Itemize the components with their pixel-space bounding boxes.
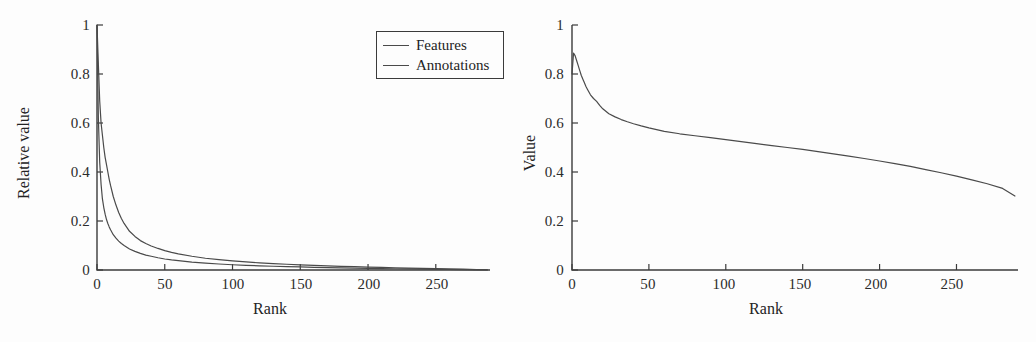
xaxis-title-left: Rank <box>253 300 287 318</box>
legend-line-icon-annotations <box>383 65 409 66</box>
ytick-label-right-4: 0.8 <box>528 66 564 83</box>
xtick-label-left-4: 200 <box>357 276 380 293</box>
xtick-label-right-3: 150 <box>788 276 811 293</box>
xtick-label-right-2: 100 <box>712 276 735 293</box>
figure-container: 0 0.2 0.4 0.6 0.8 1 0 50 100 150 200 250… <box>0 0 1036 342</box>
ytick-label-left-4: 0.8 <box>54 66 90 83</box>
xtick-label-right-0: 0 <box>568 276 576 293</box>
ytick-label-left-2: 0.4 <box>54 164 90 181</box>
yaxis-title-left: Relative value <box>12 98 36 198</box>
ytick-label-right-1: 0.2 <box>528 213 564 230</box>
yaxis-title-left-text: Relative value <box>15 103 33 203</box>
ytick-label-left-1: 0.2 <box>54 213 90 230</box>
xtick-label-left-2: 100 <box>221 276 244 293</box>
ytick-label-right-5: 1 <box>528 17 564 34</box>
xtick-label-left-3: 150 <box>289 276 312 293</box>
ytick-label-left-3: 0.6 <box>54 115 90 132</box>
xtick-label-right-4: 200 <box>864 276 887 293</box>
legend-label-annotations: Annotations <box>416 55 489 75</box>
legend-line-icon-features <box>383 45 409 46</box>
xtick-label-left-1: 50 <box>157 276 172 293</box>
ytick-label-left-0: 0 <box>54 262 90 279</box>
xtick-label-right-1: 50 <box>640 276 655 293</box>
ytick-label-right-0: 0 <box>528 262 564 279</box>
xtick-label-right-5: 250 <box>940 276 963 293</box>
xtick-label-left-5: 250 <box>425 276 448 293</box>
chart-panel-right: 0 0.2 0.4 0.6 0.8 1 0 50 100 150 200 250… <box>518 0 1036 342</box>
yaxis-title-right-text: Value <box>521 123 539 183</box>
chart-panel-left: 0 0.2 0.4 0.6 0.8 1 0 50 100 150 200 250… <box>0 0 518 342</box>
xtick-label-left-0: 0 <box>93 276 101 293</box>
legend-item-features: Features <box>383 35 495 55</box>
legend-item-annotations: Annotations <box>383 55 495 75</box>
yaxis-title-right: Value <box>518 118 542 178</box>
legend-label-features: Features <box>416 35 467 55</box>
ytick-label-left-5: 1 <box>54 17 90 34</box>
xaxis-title-right: Rank <box>749 300 783 318</box>
legend-left: Features Annotations <box>376 31 504 79</box>
